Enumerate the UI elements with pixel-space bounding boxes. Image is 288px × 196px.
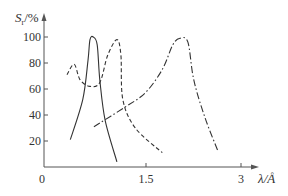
y-axis-label-unit: /% [24,10,39,25]
y-tick-label: 40 [29,108,41,122]
x-axis-label: λ/Å [257,171,275,186]
y-tick-label: 100 [23,30,41,44]
x-tick-label: 1.5 [139,172,154,186]
x-tick-label: 0 [39,172,45,186]
y-axis-label: Sr/% [15,10,39,27]
y-tick-label: 80 [29,56,41,70]
x-axis [44,165,259,170]
series-solid-line [70,36,117,161]
series-dash-dot-line [94,37,218,151]
y-tick-label: 20 [29,134,41,148]
chart: 20406080100 01.53 Sr/% λ/Å [0,0,288,196]
curves [67,36,218,161]
y-tick-label: 60 [29,82,41,96]
y-axis [42,13,47,167]
x-ticks: 01.53 [39,163,244,186]
x-axis-arrow-icon [251,165,259,170]
y-axis-arrow-icon [42,13,47,21]
series-dashed-line [67,40,162,153]
x-tick-label: 3 [238,172,244,186]
